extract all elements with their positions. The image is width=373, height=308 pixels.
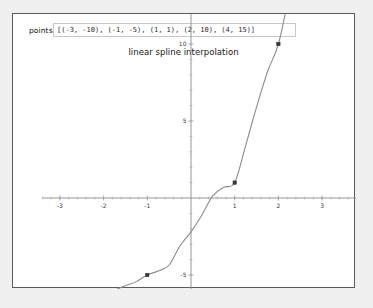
major-ticks [60,14,356,289]
svg-text:2: 2 [276,202,280,209]
svg-text:3: 3 [320,202,324,209]
minor-ticks [42,14,356,289]
svg-text:1: 1 [233,202,237,209]
data-point-marker [146,273,149,276]
spline-curve [60,14,356,289]
svg-text:-2: -2 [101,202,107,209]
svg-text:-5: -5 [181,271,187,278]
data-point-markers [58,14,356,289]
svg-text:10: 10 [179,40,187,47]
data-point-marker [277,42,280,45]
data-point-marker [233,181,236,184]
axes [42,14,356,289]
svg-text:-1: -1 [144,202,150,209]
applet-window: points linear spline interpolation -3-2-… [12,13,355,288]
svg-text:-3: -3 [57,202,63,209]
svg-text:5: 5 [183,117,187,124]
tick-labels: -3-2-1123415105-5-10 [57,14,356,289]
plot-canvas: -3-2-1123415105-5-10 [13,14,356,289]
